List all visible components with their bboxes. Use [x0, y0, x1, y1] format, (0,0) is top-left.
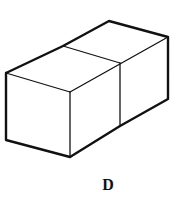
two-cube-block-diagram — [0, 0, 185, 198]
front-top-edge — [6, 73, 70, 92]
top-right-edge — [70, 37, 168, 92]
cube-divider-top — [63, 46, 120, 63]
figure-label: D — [96, 176, 120, 194]
block-outline — [6, 21, 168, 157]
